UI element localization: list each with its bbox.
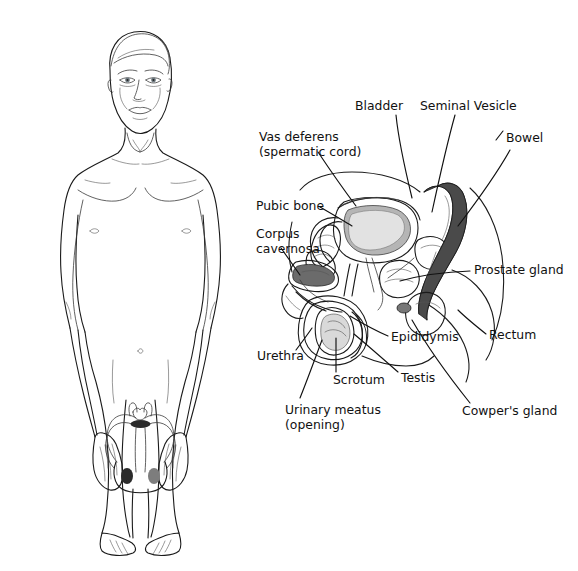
anatomy-figure: Bladder Seminal Vesicle Bowel Vas defere… [0,0,578,571]
label-urinary-meatus-line2: (opening) [285,417,345,432]
label-vas-deferens-line2: (spermatic cord) [259,144,361,159]
label-seminal-vesicle: Seminal Vesicle [420,98,517,113]
cowpers-gland-shape [397,303,411,313]
label-corpus-cavernosa: Corpus [256,226,300,241]
anatomy-diagram-svg: Bladder Seminal Vesicle Bowel Vas defere… [0,0,578,571]
left-pupil [127,79,129,81]
canvas-background [0,0,578,571]
label-testis: Testis [400,370,435,385]
label-bowel: Bowel [506,130,543,145]
label-bladder: Bladder [355,98,404,113]
label-prostate-gland: Prostate gland [474,262,564,277]
right-pupil [153,79,155,81]
label-scrotum: Scrotum [333,372,385,387]
overlay-testis-left [121,468,133,484]
overlay-prostate [131,420,151,428]
label-cowpers-gland: Cowper's gland [462,403,557,418]
label-corpus-cavernosa-line2: cavernosa [256,241,320,256]
label-urethra: Urethra [257,348,304,363]
label-pubic-bone: Pubic bone [256,198,324,213]
label-urinary-meatus: Urinary meatus [285,402,381,417]
label-rectum: Rectum [489,327,536,342]
label-vas-deferens: Vas deferens [259,129,339,144]
label-epididymis: Epididymis [391,329,459,344]
overlay-testis-right [148,468,160,484]
